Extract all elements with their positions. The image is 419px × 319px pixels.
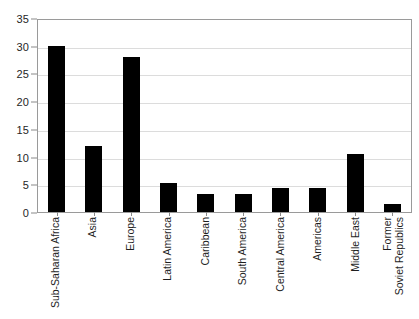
x-tick-label: Central America xyxy=(275,217,287,292)
y-tick-label: 30 xyxy=(17,41,29,53)
bar-slot xyxy=(262,20,299,212)
bar xyxy=(48,46,65,212)
x-tick-label: Caribbean xyxy=(200,217,212,265)
x-tick-label-line: Asia xyxy=(87,217,99,237)
x-tick-label-line: Middle East xyxy=(349,217,361,272)
x-label-slot: Central America xyxy=(262,214,300,319)
x-tick-label-line: Sub-Saharan Africa xyxy=(49,217,61,308)
x-tick-label: Latin America xyxy=(163,217,175,281)
x-tick-label: FormerSoviet Republics xyxy=(382,217,405,295)
bar-slot xyxy=(224,20,261,212)
y-axis: 05101520253035 xyxy=(0,0,37,319)
x-label-slot: Americas xyxy=(300,214,338,319)
x-tick-label-line: Americas xyxy=(312,217,324,261)
bar-slot xyxy=(38,20,75,212)
bar-slot xyxy=(113,20,150,212)
x-tick-label: Middle East xyxy=(350,217,362,272)
bar-slot xyxy=(75,20,112,212)
y-tick-label: 0 xyxy=(23,207,29,219)
x-tick-label: Americas xyxy=(313,217,325,261)
x-label-slot: Sub-Saharan Africa xyxy=(37,214,75,319)
plot-area xyxy=(37,19,412,213)
x-axis-labels: Sub-Saharan AfricaAsiaEuropeLatin Americ… xyxy=(37,214,412,319)
y-tick-label: 15 xyxy=(17,124,29,136)
x-tick-label-line: Europe xyxy=(124,217,136,251)
x-label-slot: Asia xyxy=(75,214,113,319)
x-label-slot: Middle East xyxy=(337,214,375,319)
bar-slot xyxy=(336,20,373,212)
x-label-slot: South America xyxy=(225,214,263,319)
y-tick-label: 35 xyxy=(17,13,29,25)
y-tick-label: 5 xyxy=(23,179,29,191)
bar-slot xyxy=(187,20,224,212)
bar xyxy=(272,188,289,212)
x-label-slot: Caribbean xyxy=(187,214,225,319)
y-tick-label: 20 xyxy=(17,96,29,108)
x-tick-label-line: South America xyxy=(237,217,249,285)
bar-slot xyxy=(150,20,187,212)
y-tick-label: 25 xyxy=(17,68,29,80)
y-tick-label: 10 xyxy=(17,152,29,164)
bar-chart: 05101520253035 Sub-Saharan AfricaAsiaEur… xyxy=(0,0,419,319)
x-tick-label-line: Central America xyxy=(274,217,286,292)
x-tick-label: Sub-Saharan Africa xyxy=(50,217,62,308)
x-tick-label-line: Caribbean xyxy=(199,217,211,265)
x-label-slot: Europe xyxy=(112,214,150,319)
x-tick-label-line: Latin America xyxy=(162,217,174,281)
x-tick-label-line: Soviet Republics xyxy=(393,217,405,295)
bar xyxy=(235,194,252,212)
bar xyxy=(384,204,401,212)
bar xyxy=(347,154,364,212)
bar-slot xyxy=(374,20,411,212)
bar-slot xyxy=(299,20,336,212)
bar xyxy=(197,194,214,212)
bars-layer xyxy=(38,20,411,212)
x-tick-label: Europe xyxy=(125,217,137,251)
bar xyxy=(85,146,102,213)
x-tick-label: Asia xyxy=(88,217,100,237)
bar xyxy=(309,188,326,212)
x-label-slot: FormerSoviet Republics xyxy=(375,214,413,319)
x-tick-label: South America xyxy=(238,217,250,285)
x-tick-label-line: Former xyxy=(381,217,393,251)
x-label-slot: Latin America xyxy=(150,214,188,319)
bar xyxy=(123,57,140,212)
bar xyxy=(160,183,177,212)
